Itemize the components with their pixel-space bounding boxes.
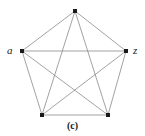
graph-edge	[75, 11, 108, 115]
graph-edge	[42, 11, 75, 115]
vertex-label-a: a	[7, 45, 13, 56]
graph-vertex	[106, 113, 110, 117]
figure-caption: (c)	[0, 121, 145, 131]
graph-edge	[22, 51, 108, 115]
graph-vertex	[40, 113, 44, 117]
graph-edge	[42, 51, 126, 115]
graph-vertex	[124, 49, 128, 53]
graph-edge	[108, 51, 126, 115]
edge-group	[22, 11, 126, 115]
vertex-label-z: z	[133, 45, 137, 56]
figure-container: a z (c)	[0, 0, 145, 136]
graph-edge	[22, 11, 75, 51]
graph-diagram	[0, 0, 145, 122]
graph-vertex	[20, 49, 24, 53]
graph-edge	[75, 11, 126, 51]
graph-vertex	[73, 9, 77, 13]
graph-edge	[22, 51, 42, 115]
